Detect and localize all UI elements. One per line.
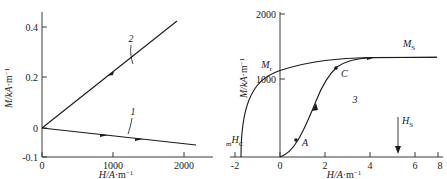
remanence-label: Mr (260, 59, 272, 73)
right-x-axis-title-exp: −1 (354, 169, 362, 177)
left-x-axis-title-exp: −1 (126, 169, 134, 177)
point-c-marker (334, 66, 338, 70)
coercivity-label: mHC (226, 134, 244, 148)
left-x-axis-title: H/A·m−1 (98, 169, 134, 179)
left-xtick-label-2000: 2000 (174, 160, 194, 171)
right-x-axis-title-main: H/A (326, 169, 344, 178)
point-c-label: C (341, 68, 348, 79)
left-x-ticks (42, 152, 184, 157)
left-ytick-label-0p4: 0.4 (26, 22, 39, 33)
right-chart-svg: 2000 1000 -2 0 2 4 6 8 H/A·m−1 M/kA·m−1 (224, 0, 447, 178)
right-xtick-label-0: 0 (278, 160, 283, 171)
saturation-field-label: HS (401, 115, 413, 129)
right-x-axis-title: H/A·m−1 (326, 169, 362, 179)
left-x-axis-title-main: H/A (98, 169, 116, 178)
saturation-magnetization-label: MS (402, 38, 415, 52)
mr-sub: r (270, 65, 273, 73)
right-y-axis-title-mid: ·m (238, 65, 249, 76)
magnetization-figure: 0.4 0.2 0 -0.1 0 1000 2000 H/A·m−1 M/kA·… (0, 0, 447, 178)
right-y-axis-title: M/kA·m−1 (238, 57, 250, 99)
hs-arrow-head (395, 146, 401, 154)
left-ytick-label-neg0p1: -0.1 (22, 152, 38, 163)
left-label-1-leader (128, 118, 132, 134)
right-x-axis-title-mid: ·m (343, 169, 354, 178)
left-ytick-label-0p2: 0.2 (26, 72, 39, 83)
right-x-ticks (235, 152, 438, 157)
left-curve-label-1: 1 (131, 106, 136, 117)
right-y-axis-title-exp: −1 (238, 57, 246, 65)
left-y-axis-title-exp: −1 (3, 67, 11, 75)
mhc-sub: C (239, 140, 244, 148)
left-chart-panel: 0.4 0.2 0 -0.1 0 1000 2000 H/A·m−1 M/kA·… (0, 0, 224, 178)
left-label-2-leader (131, 45, 133, 64)
right-xtick-label-8: 8 (438, 160, 443, 171)
left-chart-svg: 0.4 0.2 0 -0.1 0 1000 2000 H/A·m−1 M/kA·… (0, 0, 224, 178)
left-xtick-label-0: 0 (40, 160, 45, 171)
point-a-label: A (301, 137, 309, 148)
curve-3-label: 3 (352, 94, 358, 105)
point-a-marker (294, 138, 298, 142)
left-x-axis-title-mid: ·m (115, 169, 126, 178)
left-y-axis-title-main: M/kA (3, 86, 14, 110)
left-ytick-label-0: 0 (33, 123, 38, 134)
ms-sub: S (411, 44, 415, 52)
right-chart-panel: 2000 1000 -2 0 2 4 6 8 H/A·m−1 M/kA·m−1 (224, 0, 447, 178)
left-y-axis-title: M/kA·m−1 (3, 67, 15, 109)
left-y-axis-title-mid: ·m (3, 75, 14, 86)
right-xtick-label-6: 6 (413, 160, 418, 171)
left-y-ticks (42, 27, 47, 157)
hs-sub: S (409, 121, 413, 129)
right-y-axis-title-main: M/kA (238, 76, 249, 100)
left-curve-1 (42, 128, 196, 145)
right-xtick-label-4: 4 (368, 160, 373, 171)
right-xtick-label-neg2: -2 (231, 160, 239, 171)
left-curve-label-2: 2 (129, 33, 134, 44)
right-ytick-label-2000: 2000 (256, 9, 276, 20)
